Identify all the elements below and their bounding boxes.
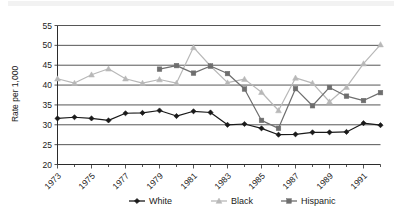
data-point xyxy=(157,77,163,82)
data-point xyxy=(242,87,247,92)
data-point xyxy=(242,121,247,126)
data-point xyxy=(327,85,332,90)
data-point xyxy=(157,108,162,113)
data-point xyxy=(293,86,298,91)
legend-item-hispanic[interactable]: Hispanic xyxy=(281,196,336,206)
x-tick-label: 1985 xyxy=(246,171,267,192)
data-point xyxy=(106,118,111,123)
data-point xyxy=(378,123,383,128)
data-series-layer xyxy=(55,42,384,138)
y-tick-label: 55 xyxy=(43,21,53,31)
legend-label: Black xyxy=(231,196,254,206)
data-point xyxy=(123,111,128,116)
legend-item-black[interactable]: Black xyxy=(211,196,254,206)
series-black xyxy=(55,42,384,113)
x-axis-tick-labels: 1973197519771979198119831985198719891991 xyxy=(42,171,369,192)
legend-label: White xyxy=(149,196,172,206)
y-tick-label: 45 xyxy=(43,60,53,70)
data-point xyxy=(225,71,230,76)
data-point xyxy=(293,132,298,137)
series-white xyxy=(55,108,383,137)
x-tick-label: 1975 xyxy=(76,171,97,192)
y-tick-label: 20 xyxy=(43,160,53,170)
data-point xyxy=(191,109,196,114)
axis-ticks xyxy=(55,26,381,169)
x-tick-label: 1973 xyxy=(42,171,63,192)
data-point xyxy=(157,67,162,72)
data-point xyxy=(378,90,383,95)
data-point xyxy=(310,130,315,135)
line-chart: 2025303540455055 19731975197719791981198… xyxy=(0,0,402,222)
y-tick-label: 35 xyxy=(43,100,53,110)
y-tick-label: 50 xyxy=(43,40,53,50)
data-point xyxy=(259,126,264,131)
y-tick-label: 25 xyxy=(43,140,53,150)
x-tick-label: 1979 xyxy=(144,171,165,192)
data-point xyxy=(276,126,281,131)
y-tick-label: 30 xyxy=(43,120,53,130)
x-tick-label: 1977 xyxy=(110,171,131,192)
data-point xyxy=(55,76,61,81)
data-point xyxy=(378,42,384,47)
x-tick-label: 1991 xyxy=(348,171,369,192)
data-point xyxy=(140,110,145,115)
data-point xyxy=(191,71,196,76)
data-point xyxy=(123,76,129,81)
y-axis-title: Rate per 1,000 xyxy=(10,66,20,123)
data-point xyxy=(293,75,299,80)
series-hispanic xyxy=(157,63,383,130)
data-point xyxy=(327,130,332,135)
data-point xyxy=(287,199,292,204)
data-point xyxy=(106,66,112,71)
x-tick-label: 1983 xyxy=(212,171,233,192)
series-line xyxy=(58,110,381,134)
data-point xyxy=(134,198,139,203)
data-point xyxy=(344,94,349,99)
chart-canvas: 2025303540455055 19731975197719791981198… xyxy=(0,0,402,222)
series-line xyxy=(58,45,381,111)
data-point xyxy=(208,64,213,69)
data-point xyxy=(72,115,77,120)
axes xyxy=(58,26,381,165)
x-tick-label: 1987 xyxy=(280,171,301,192)
y-axis-tick-labels: 2025303540455055 xyxy=(43,21,53,170)
data-point xyxy=(310,103,315,108)
x-tick-label: 1981 xyxy=(178,171,199,192)
data-point xyxy=(344,129,349,134)
data-point xyxy=(174,63,179,68)
data-point xyxy=(89,116,94,121)
legend-label: Hispanic xyxy=(301,196,336,206)
x-tick-label: 1989 xyxy=(314,171,335,192)
chart-legend: WhiteBlackHispanic xyxy=(129,196,336,206)
y-tick-label: 40 xyxy=(43,80,53,90)
data-point xyxy=(276,132,281,137)
data-point xyxy=(242,76,248,81)
data-point xyxy=(174,113,179,118)
legend-item-white[interactable]: White xyxy=(129,196,172,206)
data-point xyxy=(361,98,366,103)
data-point xyxy=(55,116,60,121)
data-point xyxy=(259,118,264,123)
